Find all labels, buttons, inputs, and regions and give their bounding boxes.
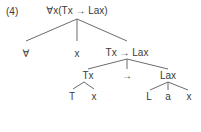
tree-node-lax: Lax [160,70,176,82]
tree-root-node: ∀x(Tx → Lax) [46,5,107,17]
tree-node-quantifier: ∀ [23,48,30,60]
tree-edges [0,0,201,132]
tree-node-conditional: Tx → Lax [106,47,149,59]
tree-leaf-x2: x [187,91,192,103]
tree-leaf-t: T [69,91,75,103]
tree-leaf-x: x [92,91,97,103]
tree-leaf-l: L [146,91,152,103]
tree-leaf-a: a [165,91,171,103]
tree-node-tx: Tx [82,70,93,82]
tree-node-arrow: → [122,70,132,82]
tree-node-variable: x [75,48,80,60]
